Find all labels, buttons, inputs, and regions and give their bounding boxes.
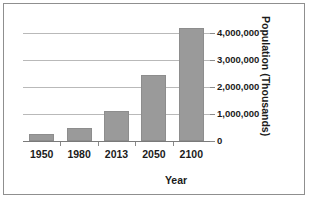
y-axis-tick: [210, 87, 215, 88]
y-axis-tick-label: 0: [217, 136, 222, 146]
x-axis-tick: [135, 142, 136, 146]
y-axis-tick-label: 3,000,000: [217, 55, 259, 65]
y-axis-tick-label: 1,000,000: [217, 109, 259, 119]
bar: [141, 75, 166, 141]
x-axis-tick-label: 2050: [134, 149, 174, 160]
bar: [29, 134, 54, 141]
x-axis-line: [23, 141, 213, 142]
x-axis-tick-label: 1950: [22, 149, 62, 160]
y-axis-tick: [210, 114, 215, 115]
y-axis-tick: [210, 33, 215, 34]
y-axis-tick-label: 4,000,000: [217, 28, 259, 38]
bar: [179, 28, 204, 141]
y-axis-tick: [210, 141, 215, 142]
bar: [104, 111, 129, 141]
x-axis-tick-label: 2013: [97, 149, 137, 160]
y-axis-tick-label: 2,000,000: [217, 82, 259, 92]
x-axis-tick: [173, 142, 174, 146]
y-axis-title: Population (Thousands): [258, 16, 272, 146]
y-axis-tick: [210, 60, 215, 61]
x-axis-tick-label: 1980: [59, 149, 99, 160]
x-axis-tick: [60, 142, 61, 146]
x-axis-title: Year: [136, 174, 216, 186]
x-axis-tick-label: 2100: [171, 149, 211, 160]
chart-frame: Year Population (Thousands) 01,000,0002,…: [3, 3, 305, 195]
bar: [67, 128, 92, 141]
plot-area: [23, 19, 210, 141]
x-axis-tick: [98, 142, 99, 146]
